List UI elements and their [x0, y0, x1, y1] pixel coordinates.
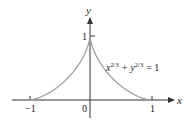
x-tick-label-0: 0: [82, 103, 87, 114]
y-tick-label-1: 1: [82, 31, 87, 42]
x-axis-label: x: [176, 94, 182, 106]
y-axis-arrow-icon: [87, 17, 93, 24]
x-tick-label-1: 1: [150, 103, 155, 114]
equation-label: x2/3+y2/3= 1: [105, 61, 159, 73]
y-axis-label: y: [85, 4, 91, 16]
x-axis-arrow-icon: [168, 97, 175, 103]
astroid-plot: x y −1 0 1 1 x2/3+y2/3= 1: [0, 0, 187, 123]
x-tick-label-neg1: −1: [25, 103, 36, 114]
